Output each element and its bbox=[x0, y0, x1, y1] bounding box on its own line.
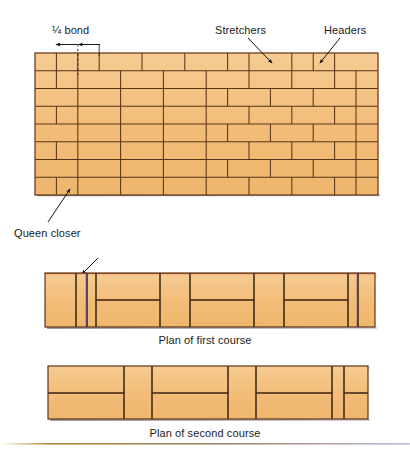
plan-first-course bbox=[45, 273, 377, 329]
plan-second-course-caption: Plan of second course bbox=[0, 427, 410, 439]
headers-label: Headers bbox=[324, 24, 366, 36]
quarter-bond-label: ¼ bond bbox=[52, 24, 89, 36]
plan-first-course-caption: Plan of first course bbox=[0, 334, 410, 346]
stretchers-label: Stretchers bbox=[215, 24, 266, 36]
diagram-canvas: ¼ bond Stretchers Headers Queen closer P… bbox=[0, 0, 410, 454]
queen-closer-label: Queen closer bbox=[14, 227, 81, 239]
plan-second-course bbox=[48, 366, 370, 421]
bottom-accent-rule bbox=[0, 443, 410, 445]
queen-closer-plan-leader-line bbox=[82, 258, 98, 274]
wall-elevation bbox=[35, 53, 380, 196]
